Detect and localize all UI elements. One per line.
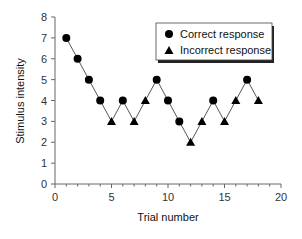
legend-label-incorrect: Incorrect response (180, 44, 271, 56)
x-tick-label: 10 (162, 191, 174, 203)
incorrect-response-marker (254, 96, 263, 104)
correct-response-marker (74, 55, 82, 63)
y-tick-label: 2 (41, 136, 47, 148)
staircase-chart: 012345678 05101520 Stimulus intensity Tr… (0, 0, 302, 239)
x-tick-label: 20 (275, 191, 287, 203)
x-axis-title: Trial number (137, 211, 199, 223)
incorrect-response-marker (220, 117, 229, 125)
correct-response-marker (85, 76, 93, 84)
incorrect-response-marker (107, 117, 116, 125)
x-tick-label: 0 (52, 191, 58, 203)
legend: Correct response Incorrect response (156, 23, 274, 63)
incorrect-response-marker (231, 96, 240, 104)
y-tick-label: 6 (41, 53, 47, 65)
correct-response-marker (209, 97, 217, 105)
correct-response-marker (243, 76, 251, 84)
correct-response-marker (62, 34, 70, 42)
y-tick-label: 0 (41, 178, 47, 190)
y-tick-label: 1 (41, 157, 47, 169)
incorrect-response-marker (197, 117, 206, 125)
y-axis-title: Stimulus intensity (14, 58, 26, 144)
x-axis-ticks: 05101520 (52, 184, 287, 203)
y-tick-label: 4 (41, 95, 47, 107)
x-tick-label: 15 (218, 191, 230, 203)
correct-response-marker (96, 97, 104, 105)
legend-label-correct: Correct response (180, 28, 264, 40)
y-tick-label: 3 (41, 115, 47, 127)
y-axis-ticks: 012345678 (41, 11, 55, 190)
correct-response-marker (175, 117, 183, 125)
y-tick-label: 8 (41, 11, 47, 23)
correct-response-marker (164, 97, 172, 105)
y-tick-label: 7 (41, 32, 47, 44)
correct-response-marker (119, 97, 127, 105)
x-tick-label: 5 (108, 191, 114, 203)
incorrect-response-marker (186, 138, 195, 146)
correct-response-marker (153, 76, 161, 84)
incorrect-response-marker (130, 117, 139, 125)
incorrect-response-marker (141, 96, 150, 104)
y-tick-label: 5 (41, 74, 47, 86)
legend-circle-icon (165, 30, 173, 38)
